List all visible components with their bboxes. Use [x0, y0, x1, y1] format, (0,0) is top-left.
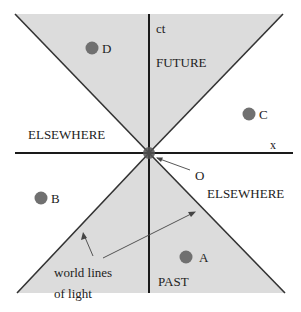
event-dot-a: [180, 251, 193, 264]
past-region-label: PAST: [158, 274, 189, 289]
event-dot-b: [35, 192, 48, 205]
event-label-d: D: [102, 41, 111, 56]
future-region-label: FUTURE: [156, 55, 207, 70]
origin-dot: [143, 147, 155, 159]
event-label-a: A: [199, 250, 209, 265]
annotation-line-2: of light: [54, 286, 92, 301]
event-dot-d: [86, 42, 99, 55]
space-axis-label: x: [270, 138, 276, 152]
elsewhere-right-label: ELSEWHERE: [207, 186, 284, 201]
annotation-line-1: world lines: [54, 265, 112, 280]
event-label-c: C: [259, 107, 268, 122]
elsewhere-left-label: ELSEWHERE: [28, 127, 105, 142]
time-axis-label: ct: [156, 21, 166, 36]
event-label-b: B: [51, 191, 60, 206]
light-cone-diagram: D C B A ct x O FUTURE PAST ELSEWHERE ELS…: [0, 0, 301, 312]
origin-label: O: [195, 168, 204, 183]
event-dot-c: [243, 108, 256, 121]
